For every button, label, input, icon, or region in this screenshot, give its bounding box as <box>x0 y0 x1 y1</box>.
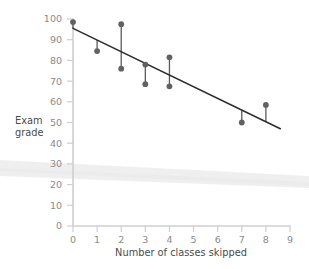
y-tick-label: 20 <box>50 179 62 190</box>
y-axis-ticks: 0102030405060708090100 <box>44 13 73 231</box>
chart-canvas: 0102030405060708090100 0123456789 Exam g… <box>0 0 309 269</box>
x-axis-title: Number of classes skipped <box>115 247 247 258</box>
x-tick-label: 2 <box>118 234 124 245</box>
y-tick-label: 90 <box>50 34 62 45</box>
regression-line <box>73 28 280 128</box>
y-tick-label: 100 <box>44 13 62 24</box>
y-axis-title-line1: Exam <box>15 115 43 126</box>
y-tick-label: 30 <box>50 158 62 169</box>
y-tick-label: 70 <box>50 76 62 87</box>
y-tick-label: 50 <box>50 117 62 128</box>
data-point <box>142 81 148 87</box>
x-tick-label: 7 <box>239 234 245 245</box>
scan-artifact-band <box>0 160 309 188</box>
x-axis-ticks: 0123456789 <box>70 226 293 245</box>
x-tick-label: 8 <box>263 234 269 245</box>
data-point <box>239 120 245 126</box>
axes-group <box>73 19 290 226</box>
data-point <box>118 21 124 27</box>
x-tick-label: 6 <box>215 234 221 245</box>
x-tick-label: 5 <box>191 234 197 245</box>
y-tick-label: 0 <box>56 220 62 231</box>
data-point <box>263 102 269 108</box>
data-point <box>70 19 76 25</box>
x-tick-label: 9 <box>287 234 293 245</box>
y-tick-label: 60 <box>50 96 62 107</box>
scatter-plot-figure: 0102030405060708090100 0123456789 Exam g… <box>0 0 309 269</box>
y-tick-label: 10 <box>50 200 62 211</box>
data-point <box>167 54 173 60</box>
data-point <box>142 62 148 68</box>
x-tick-label: 0 <box>70 234 76 245</box>
y-axis-title-line2: grade <box>15 127 44 138</box>
y-tick-label: 40 <box>50 138 62 149</box>
data-point <box>94 48 100 54</box>
data-point <box>167 83 173 89</box>
x-tick-label: 3 <box>142 234 148 245</box>
y-tick-label: 80 <box>50 55 62 66</box>
x-tick-label: 4 <box>166 234 172 245</box>
data-point <box>118 66 124 72</box>
x-tick-label: 1 <box>94 234 100 245</box>
